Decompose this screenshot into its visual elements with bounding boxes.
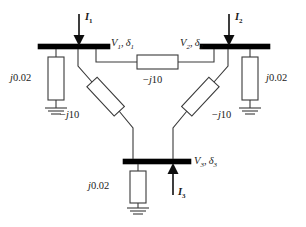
current-label-I3: I3	[178, 187, 186, 200]
bus-1-voltage-label: V1, δ1	[111, 38, 134, 51]
branch-1-3-element	[87, 77, 125, 116]
diagram-canvas	[0, 0, 306, 227]
current-label-I1: I1	[85, 12, 93, 25]
shunt-2-label: j0.02	[266, 73, 287, 84]
branch-1-2-element	[137, 55, 178, 69]
shunt-3-element	[130, 171, 146, 203]
shunt-3-label: j0.02	[88, 181, 109, 192]
ground-symbol-2	[239, 108, 261, 114]
shunt-1-label: j0.02	[10, 73, 31, 84]
branch-2-3-label: −j10	[212, 110, 231, 121]
branch-1-3-top-lead	[78, 49, 92, 82]
busbar-3	[123, 159, 191, 164]
bus-2-voltage-label: V2, δ2	[180, 38, 203, 51]
shunt-1-element	[48, 57, 64, 100]
branch-1-2-label: −j10	[143, 75, 162, 86]
ground-symbol-3	[127, 208, 149, 214]
branch-2-3-top-lead	[214, 49, 228, 82]
branch-1-3-label: −j10	[60, 110, 79, 121]
busbar-1	[38, 44, 110, 49]
bus-3-voltage-label: V3, δ3	[194, 156, 217, 169]
shunt-2-element	[242, 57, 258, 100]
current-arrow-I1	[74, 14, 85, 46]
branch-1-3-bottom-lead	[119, 111, 133, 159]
power-system-diagram: I1 I2 I3 V1, δ1 V2, δ2 V3, δ3 j0.02 j0.0…	[0, 0, 306, 227]
current-arrow-I3	[168, 163, 179, 195]
current-arrow-I2	[224, 14, 235, 46]
current-label-I2: I2	[235, 12, 243, 25]
busbar-2	[200, 44, 270, 49]
branch-2-3-bottom-lead	[173, 111, 187, 159]
